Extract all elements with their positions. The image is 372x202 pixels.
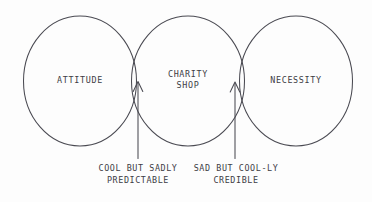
arrow-up-icon-left: [133, 82, 143, 159]
set-label-charity-shop-line-1: CHARITY: [143, 69, 233, 80]
set-label-necessity: NECESSITY: [248, 75, 344, 86]
set-label-charity-shop-line-2: SHOP: [143, 80, 233, 91]
annotation-right-line-1: SAD BUT COOL-LY: [174, 163, 298, 175]
annotation-right-line-2: CREDIBLE: [174, 175, 298, 187]
arrow-up-icon-right: [230, 82, 240, 159]
set-label-attitude: ATTITUDE: [32, 75, 128, 86]
venn-diagram: ATTITUDE CHARITY SHOP NECESSITY COOL BUT…: [0, 0, 372, 202]
